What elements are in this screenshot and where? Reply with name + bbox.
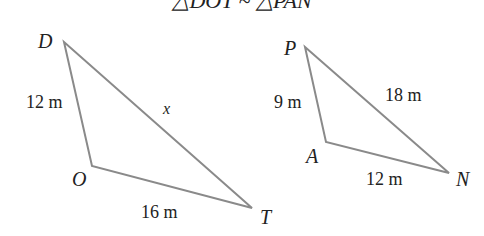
vertex-d-label: D xyxy=(37,30,53,52)
vertex-p-label: P xyxy=(283,37,296,59)
side-ot-label: 16 m xyxy=(141,202,178,222)
side-dt-label: x xyxy=(162,100,170,117)
triangle-dot-shape xyxy=(64,42,252,208)
side-an-label: 12 m xyxy=(366,169,403,189)
similar-triangles-diagram: △DOT ~ △PAN D O T 12 m 16 m x P A N 9 m … xyxy=(0,0,484,236)
triangle-pan-shape xyxy=(305,47,449,173)
triangle-pan: P A N 9 m 12 m 18 m xyxy=(274,37,471,190)
side-do-label: 12 m xyxy=(26,92,63,112)
vertex-t-label: T xyxy=(260,206,273,228)
similarity-statement: △DOT ~ △PAN xyxy=(171,0,313,13)
triangle-dot: D O T 12 m 16 m x xyxy=(26,30,273,228)
vertex-a-label: A xyxy=(304,145,319,167)
side-pn-label: 18 m xyxy=(385,85,422,105)
vertex-o-label: O xyxy=(72,168,86,190)
vertex-n-label: N xyxy=(455,168,471,190)
side-pa-label: 9 m xyxy=(274,92,302,112)
